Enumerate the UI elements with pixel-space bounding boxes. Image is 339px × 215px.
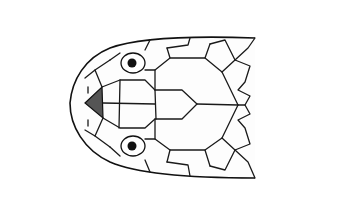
snake-head-illustration	[0, 0, 339, 215]
head-drawing	[0, 0, 339, 215]
eye-left-icon	[128, 59, 137, 68]
eye-right-icon	[128, 142, 137, 151]
